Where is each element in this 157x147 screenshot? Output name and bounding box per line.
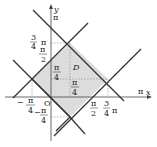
- svg-text:3: 3: [104, 99, 109, 108]
- svg-text:4: 4: [31, 42, 36, 51]
- svg-text:4: 4: [28, 106, 33, 115]
- svg-text:−: −: [17, 98, 24, 107]
- svg-text:π: π: [40, 45, 45, 54]
- x-tick-neg-quarter-pi: − π 4: [17, 96, 35, 115]
- svg-text:4: 4: [104, 109, 109, 118]
- x-tick-half-pi: π 2: [90, 99, 98, 118]
- x-axis-label: x: [146, 88, 151, 97]
- y-tick-half-pi: π 2: [39, 45, 47, 64]
- y-tick-neg-quarter-pi: − π 4: [34, 106, 48, 125]
- svg-text:4: 4: [41, 116, 46, 125]
- x-tick-three-quarter-pi: 3 4 π: [103, 99, 117, 118]
- svg-text:π: π: [54, 63, 59, 72]
- svg-text:4: 4: [72, 88, 77, 97]
- svg-text:−: −: [34, 108, 41, 117]
- diagram-figure: y π x π D O 3 4 π π 2 π 4 π 4: [0, 0, 157, 147]
- svg-text:π: π: [28, 96, 33, 105]
- svg-text:2: 2: [91, 109, 96, 118]
- y-axis-arrow-icon: [49, 4, 53, 9]
- svg-text:2: 2: [41, 55, 46, 64]
- svg-text:3: 3: [31, 33, 36, 42]
- x-tick-pi: π: [138, 87, 143, 96]
- svg-text:π: π: [91, 99, 96, 108]
- region-label: D: [72, 63, 80, 72]
- svg-text:π: π: [41, 106, 46, 115]
- svg-text:4: 4: [54, 73, 59, 82]
- y-tick-pi: π: [53, 13, 58, 22]
- svg-text:π: π: [112, 106, 117, 115]
- svg-text:π: π: [72, 78, 77, 87]
